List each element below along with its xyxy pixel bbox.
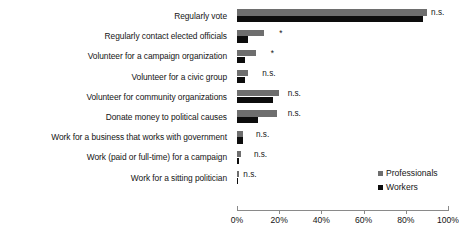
bar-workers <box>237 77 245 83</box>
bar-group: n.s. <box>237 87 448 107</box>
legend-label: Professionals <box>386 168 438 178</box>
chart-legend: Professionals Workers <box>378 166 438 194</box>
significance-annotation: n.s. <box>243 170 256 179</box>
x-axis-tick-label: 80% <box>397 215 414 225</box>
bar-professionals <box>237 131 243 137</box>
category-label: Regularly contact elected officials <box>0 26 232 46</box>
legend-item-professionals: Professionals <box>378 166 438 180</box>
category-label: Volunteer for a campaign organization <box>0 46 232 66</box>
significance-annotation: n.s. <box>431 8 444 17</box>
bar-group: n.s. <box>237 6 448 26</box>
bar-professionals <box>237 9 427 15</box>
significance-annotation: * <box>271 49 274 58</box>
significance-annotation: * <box>279 29 282 38</box>
category-label: Regularly vote <box>0 6 232 26</box>
bar-professionals <box>237 30 264 36</box>
x-axis-tick-label: 20% <box>271 215 288 225</box>
bar-workers <box>237 158 239 164</box>
x-axis-tick-label: 0% <box>231 215 243 225</box>
x-axis-tick <box>406 210 407 214</box>
x-axis-tick-label: 40% <box>313 215 330 225</box>
bar-group: n.s. <box>237 147 448 167</box>
legend-swatch-icon <box>378 171 383 176</box>
bar-workers <box>237 16 423 22</box>
bar-group: n.s. <box>237 127 448 147</box>
x-axis-tick-label: 60% <box>355 215 372 225</box>
category-label: Work (paid or full-time) for a campaign <box>0 147 232 167</box>
grouped-bar-chart: Regularly vote Regularly contact elected… <box>0 0 459 241</box>
significance-annotation: n.s. <box>288 89 301 98</box>
bar-workers <box>237 137 243 143</box>
x-axis-tick-label: 100% <box>437 215 459 225</box>
category-label: Volunteer for a civic group <box>0 67 232 87</box>
x-axis-tick <box>279 210 280 214</box>
bar-workers <box>237 57 245 63</box>
category-label: Volunteer for community organizations <box>0 87 232 107</box>
significance-annotation: n.s. <box>254 150 267 159</box>
legend-item-workers: Workers <box>378 180 438 194</box>
category-label: Work for a business that works with gove… <box>0 127 232 147</box>
bar-professionals <box>237 50 256 56</box>
category-label: Donate money to political causes <box>0 107 232 127</box>
bar-professionals <box>237 151 241 157</box>
significance-annotation: n.s. <box>288 109 301 118</box>
significance-annotation: n.s. <box>256 130 269 139</box>
bar-group: * <box>237 46 448 66</box>
x-axis-tick <box>448 206 449 211</box>
significance-annotation: n.s. <box>262 69 275 78</box>
bar-professionals <box>237 110 277 116</box>
bar-professionals <box>237 70 248 76</box>
legend-label: Workers <box>386 182 418 192</box>
bar-workers <box>237 178 238 184</box>
bar-group: n.s. <box>237 107 448 127</box>
bar-professionals <box>237 90 279 96</box>
bar-workers <box>237 36 248 42</box>
x-axis-tick <box>237 206 238 211</box>
category-label-column: Regularly vote Regularly contact elected… <box>0 6 232 188</box>
bar-group: n.s. <box>237 67 448 87</box>
bar-workers <box>237 97 273 103</box>
bar-professionals <box>237 171 239 177</box>
bar-workers <box>237 117 258 123</box>
x-axis-tick <box>321 210 322 214</box>
x-axis-line <box>237 210 448 211</box>
legend-swatch-icon <box>378 185 383 190</box>
x-axis-tick <box>364 210 365 214</box>
category-label: Work for a sitting politician <box>0 168 232 188</box>
bar-group: * <box>237 26 448 46</box>
